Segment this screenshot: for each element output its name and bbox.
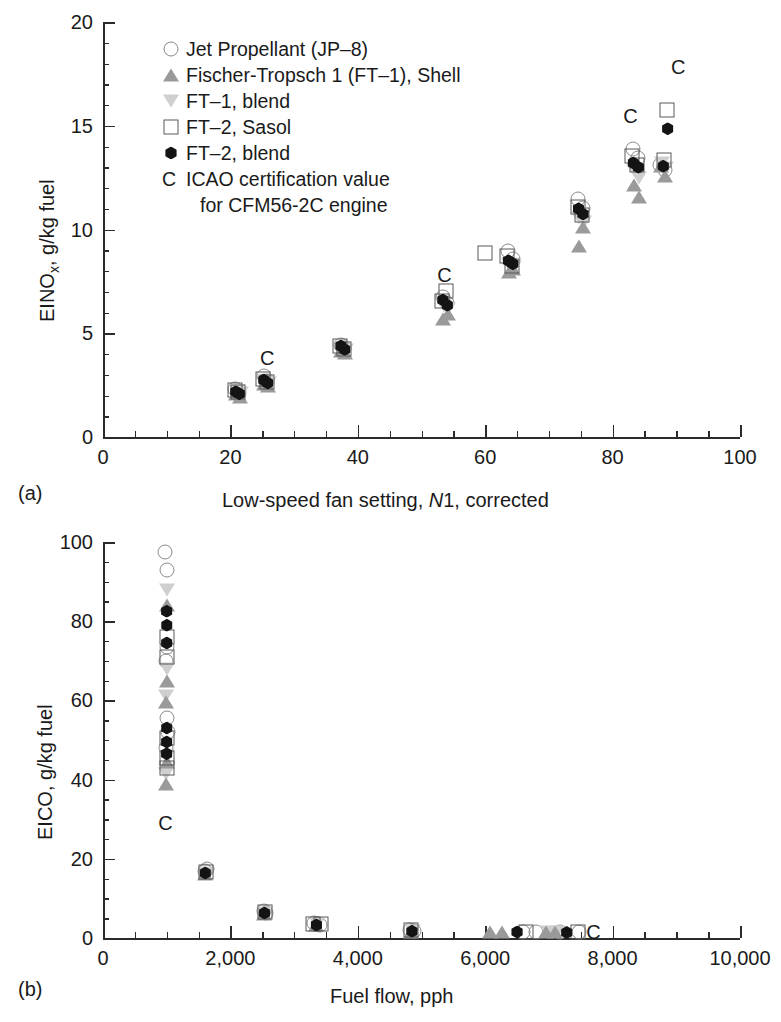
legend-label: ICAO certification value <box>186 166 390 192</box>
icao-certification-marker: C <box>586 922 600 942</box>
y-minor-tick <box>103 681 109 682</box>
data-point-filled-triangle-down <box>159 583 175 596</box>
x-minor-tick <box>167 431 168 437</box>
data-point-filled-triangle-up <box>575 221 591 234</box>
legend-symbol-filled-triangle-down <box>160 88 182 114</box>
y-minor-tick <box>103 641 109 642</box>
x-tick-label: 0 <box>97 447 108 467</box>
marker-open-circle <box>164 42 179 57</box>
y-minor-tick <box>103 354 109 355</box>
y-tick-label: 15 <box>47 116 93 136</box>
x-minor-tick <box>390 431 391 437</box>
panel-a-tag: (a) <box>18 482 42 505</box>
chart-panel-a: EINOx, g/kg fuel Low-speed fan setting, … <box>0 0 781 520</box>
x-major-tick <box>358 926 360 938</box>
x-major-tick <box>740 425 742 437</box>
y-minor-tick <box>103 661 109 662</box>
y-minor-tick <box>103 839 109 840</box>
x-minor-tick <box>644 431 645 437</box>
x-major-tick <box>103 926 105 938</box>
icao-certification-marker: C <box>437 265 451 285</box>
x-minor-tick <box>549 431 550 437</box>
x-tick-label: 60 <box>474 447 496 467</box>
panel-b-x-axis-title: Fuel flow, pph <box>330 985 453 1008</box>
data-point-filled-triangle-up <box>494 926 510 939</box>
x-minor-tick <box>262 932 263 938</box>
y-major-tick <box>103 542 115 544</box>
marker-filled-hexagon <box>165 147 178 160</box>
y-tick-label: 0 <box>47 928 93 948</box>
y-major-tick <box>103 621 115 623</box>
x-minor-tick <box>708 932 709 938</box>
y-tick-label: 60 <box>47 690 93 710</box>
x-minor-tick <box>135 932 136 938</box>
chart-panel-b: EICO, g/kg fuel Fuel flow, pph (b) 02,00… <box>0 520 781 1022</box>
figure-root: EINOx, g/kg fuel Low-speed fan setting, … <box>0 0 781 1022</box>
y-tick-label: 80 <box>47 611 93 631</box>
x-minor-tick <box>676 431 677 437</box>
y-tick-label: 20 <box>47 849 93 869</box>
marker-open-square <box>164 120 179 135</box>
x-tick-label: 40 <box>347 447 369 467</box>
x-minor-tick <box>294 431 295 437</box>
icao-certification-marker: C <box>158 813 172 833</box>
x-axis-line <box>103 437 740 439</box>
x-tick-label: 20 <box>219 447 241 467</box>
y-minor-tick <box>103 416 109 417</box>
legend-label: FT–2, blend <box>186 140 290 166</box>
icao-certification-marker: C <box>623 106 637 126</box>
y-minor-tick <box>103 64 109 65</box>
x-axis-line <box>103 938 740 940</box>
y-major-tick <box>103 780 115 782</box>
marker-filled-triangle-up <box>163 69 179 82</box>
x-major-tick <box>358 425 360 437</box>
data-point-filled-triangle-up <box>159 674 175 687</box>
y-minor-tick <box>103 898 109 899</box>
y-minor-tick <box>103 760 109 761</box>
data-point-filled-triangle-up <box>631 191 647 204</box>
data-point-filled-triangle-up <box>158 696 174 709</box>
y-tick-label: 10 <box>47 220 93 240</box>
icao-certification-marker: C <box>671 57 685 77</box>
y-major-tick <box>103 230 115 232</box>
icao-certification-marker: C <box>260 348 274 368</box>
y-tick-label: 5 <box>47 323 93 343</box>
legend-label: Fischer-Tropsch 1 (FT–1), Shell <box>186 62 461 88</box>
x-tick-label: 4,000 <box>333 948 383 968</box>
data-point-open-square <box>478 246 493 261</box>
x-minor-tick <box>199 431 200 437</box>
y-major-tick <box>103 333 115 335</box>
x-minor-tick <box>644 932 645 938</box>
legend-symbol-filled-hexagon <box>160 140 182 166</box>
legend-symbol-open-square <box>160 114 182 140</box>
y-tick-label: 100 <box>47 532 93 552</box>
legend-label: Jet Propellant (JP–8) <box>186 36 368 62</box>
x-minor-tick <box>390 932 391 938</box>
panel-b-tag: (b) <box>18 978 42 1001</box>
data-point-filled-triangle-up <box>571 240 587 253</box>
y-minor-tick <box>103 819 109 820</box>
data-point-filled-triangle-up <box>158 777 174 790</box>
x-minor-tick <box>676 932 677 938</box>
y-major-tick <box>103 437 115 439</box>
x-major-tick <box>613 926 615 938</box>
legend-symbol-open-circle <box>160 36 182 62</box>
x-tick-label: 10,000 <box>709 948 770 968</box>
y-minor-tick <box>103 188 109 189</box>
data-point-open-square <box>571 925 586 940</box>
x-major-tick <box>103 425 105 437</box>
y-minor-tick <box>103 601 109 602</box>
x-tick-label: 8,000 <box>588 948 638 968</box>
data-point-open-square <box>159 760 174 775</box>
icao-c-icon: C <box>162 166 176 192</box>
legend-label: for CFM56-2C engine <box>200 192 388 218</box>
y-minor-tick <box>103 250 109 251</box>
data-point-open-circle <box>159 562 174 577</box>
y-minor-tick <box>103 43 109 44</box>
legend-label: FT–1, blend <box>186 88 290 114</box>
x-major-tick <box>230 926 232 938</box>
x-minor-tick <box>422 431 423 437</box>
x-minor-tick <box>199 932 200 938</box>
panel-a-x-axis-title: Low-speed fan setting, N1, corrected <box>222 489 549 512</box>
legend-symbol-filled-triangle-up <box>160 62 182 88</box>
